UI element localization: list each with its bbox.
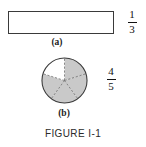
fraction-denominator: 5 <box>103 81 119 92</box>
figure-caption: FIGURE I-1 <box>0 128 146 139</box>
fraction-numerator: 4 <box>103 66 119 77</box>
figure-i-1: 1 3 (a) <box>0 0 146 147</box>
fraction-numerator: 1 <box>124 9 140 20</box>
rectangle-model <box>8 11 114 34</box>
fraction-four-fifths: 4 5 <box>103 66 119 92</box>
part-label-a: (a) <box>0 37 146 47</box>
fraction-one-third: 1 3 <box>124 9 140 35</box>
fraction-denominator: 3 <box>124 24 140 35</box>
circle-model <box>40 56 89 105</box>
rectangle-outline <box>8 11 114 34</box>
part-label-b: (b) <box>0 108 146 118</box>
